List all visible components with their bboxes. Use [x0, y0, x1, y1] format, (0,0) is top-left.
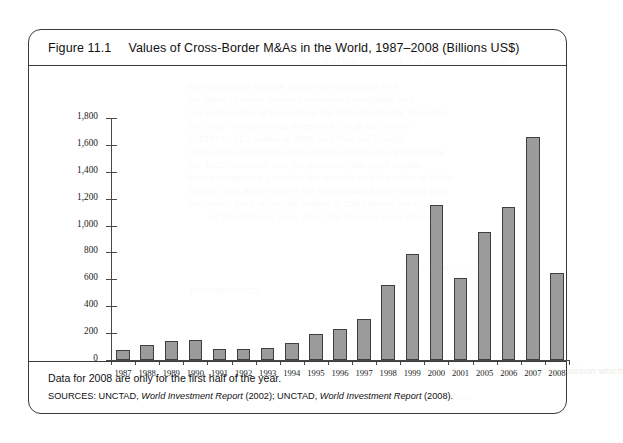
bar-2007 [526, 137, 539, 360]
y-axis-tick: 1,200 [106, 199, 117, 200]
bar-1989 [165, 341, 178, 360]
figure-sources: SOURCES: UNCTAD, World Investment Report… [48, 391, 566, 401]
y-axis-tick: 200 [106, 333, 117, 334]
y-axis-tick-label: 1,000 [77, 219, 98, 229]
sources-prefix: SOURCES: UNCTAD, [48, 391, 139, 401]
bar-1996 [333, 329, 346, 360]
bar-1988 [140, 345, 153, 360]
sources-report-title-2: World Investment Report [320, 391, 422, 401]
sources-report-title-1: World Investment Report [141, 391, 243, 401]
y-axis-tick: 1,600 [106, 145, 117, 146]
y-axis-tick-label: 1,200 [77, 192, 98, 202]
y-axis-tick: 1,000 [106, 226, 117, 227]
figure-title-bar: Figure 11.1 Values of Cross-Border M&As … [29, 30, 566, 66]
figure-box: Figure 11.1 Values of Cross-Border M&As … [28, 29, 567, 414]
bar-1987 [116, 350, 129, 360]
bar-2005 [478, 232, 491, 360]
y-axis-tick-label: 1,400 [77, 165, 98, 175]
bar-1995 [309, 334, 322, 360]
bar-1991 [213, 349, 226, 360]
x-axis-tick [569, 360, 570, 365]
y-axis-tick: 800 [106, 252, 117, 253]
bar-2006 [502, 207, 515, 360]
bar-1992 [237, 349, 250, 360]
sources-middle: (2002); UNCTAD, [245, 391, 317, 401]
y-axis-tick-label: 800 [84, 245, 98, 255]
figure-number-label: Figure 11.1 [48, 41, 111, 55]
y-axis-tick-label: 400 [84, 299, 98, 309]
figure-title: Values of Cross-Border M&As in the World… [128, 41, 519, 55]
y-axis-tick-label: 600 [84, 272, 98, 282]
bar-1999 [406, 254, 419, 360]
bar-1997 [357, 319, 370, 360]
y-axis-tick-label: 1,600 [77, 138, 98, 148]
y-axis-tick-label: 200 [84, 326, 98, 336]
y-axis-tick: 1,800 [106, 118, 117, 119]
y-axis-line [111, 118, 112, 361]
bar-2000 [430, 205, 443, 360]
y-axis-tick: 1,400 [106, 172, 117, 173]
figure-note: Data for 2008 are only for the first hal… [48, 372, 566, 384]
bar-1994 [285, 343, 298, 360]
bar-2001 [454, 278, 467, 360]
bar-1990 [189, 340, 202, 360]
bar-2008 [550, 273, 563, 360]
y-axis-tick: 400 [106, 306, 117, 307]
y-axis-tick-label: 1,800 [77, 111, 98, 121]
bar-1998 [381, 285, 394, 360]
bar-1993 [261, 348, 274, 360]
sources-suffix: (2008). [424, 391, 453, 401]
figure-caption-bar: Data for 2008 are only for the first hal… [29, 361, 566, 413]
chart-plot-area: 02004006008001,0001,2001,4001,6001,800 1… [111, 118, 569, 361]
y-axis-tick: 600 [106, 279, 117, 280]
